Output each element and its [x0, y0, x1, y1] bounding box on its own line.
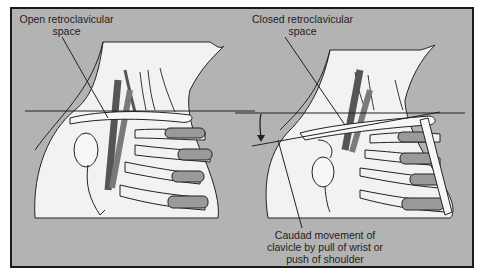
left-panel-open-space	[25, 37, 255, 218]
right-coracoid	[312, 157, 334, 187]
label-line: Closed retroclavicular	[235, 13, 370, 25]
label-line: Open retroclavicular	[14, 13, 119, 25]
left-coracoid	[74, 133, 98, 167]
label-caudad-movement: Caudad movement of clavicle by pull of w…	[260, 229, 390, 265]
right-panel-closed-space	[235, 37, 465, 228]
label-closed-retroclavicular-space: Closed retroclavicular space	[235, 13, 370, 37]
label-open-retroclavicular-space: Open retroclavicular space	[14, 13, 119, 37]
anatomy-illustration	[0, 0, 480, 274]
label-line: Caudad movement of	[260, 229, 390, 241]
caudad-angle-arrow	[260, 114, 261, 138]
label-line: push of shoulder	[260, 253, 390, 265]
label-line: space	[14, 25, 119, 37]
label-line: space	[235, 25, 370, 37]
arrow-head-icon	[257, 135, 265, 142]
label-line: clavicle by pull of wrist or	[260, 241, 390, 253]
